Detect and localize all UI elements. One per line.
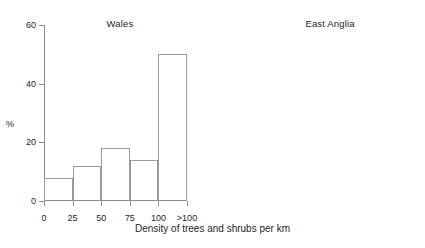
y-tick-mark [39,25,44,26]
plot-area-wales: 0204060 0255075100>100 [44,25,187,201]
x-tick-mark [73,201,74,206]
x-tick-label: 75 [125,213,135,223]
x-tick-mark [187,201,188,206]
x-tick-label: >100 [177,213,197,223]
y-tick-mark [39,84,44,85]
x-tick-label: 100 [151,213,166,223]
x-tick-mark [101,201,102,206]
chart-panel-wales: Wales 0204060 0255075100>100 % [0,0,212,248]
y-tick-label: 60 [26,20,36,30]
y-axis-title: % [6,119,14,129]
y-tick-label: 40 [26,79,36,89]
chart-title-east-anglia: East Anglia [224,18,425,29]
x-tick-label: 50 [96,213,106,223]
histogram-bar [73,166,102,201]
y-tick-mark [39,142,44,143]
x-tick-mark [158,201,159,206]
y-tick-label: 20 [26,137,36,147]
histogram-bar [44,178,73,201]
x-tick-label: 25 [68,213,78,223]
y-tick-label: 0 [31,196,36,206]
chart-panel-east-anglia: East Anglia 0255075100>100 [213,0,425,248]
x-axis-caption: Density of trees and shrubs per km [0,223,425,234]
histogram-bar [101,148,130,201]
x-tick-label: 0 [41,213,46,223]
histogram-bar [130,160,159,201]
histogram-bar [158,54,187,201]
x-tick-mark [44,201,45,206]
histogram-figure: Wales 0204060 0255075100>100 % East Angl… [0,0,425,248]
y-axis-line [44,25,45,201]
x-tick-mark [130,201,131,206]
